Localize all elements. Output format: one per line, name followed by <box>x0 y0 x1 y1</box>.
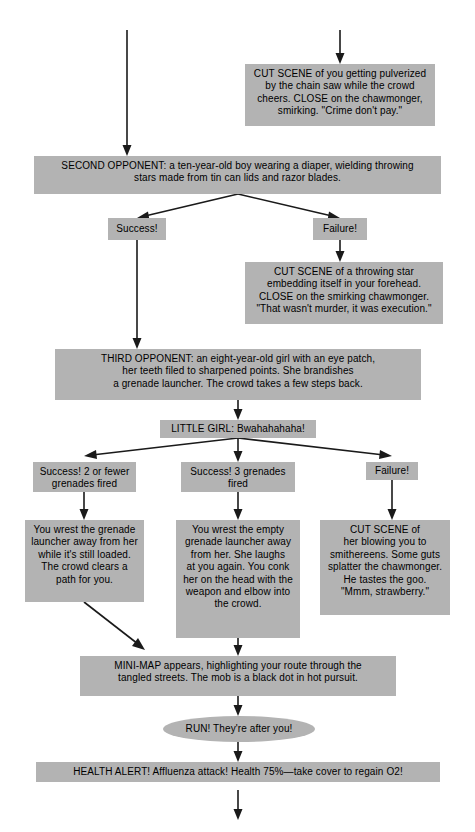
node-cut-scene-throwing-star: CUT SCENE of a throwing star embedding i… <box>245 262 443 324</box>
node-cut-scene-smithereens: CUT SCENE of her blowing you to smithere… <box>320 520 450 615</box>
node-mini-map: MINI-MAP appears, highlighting your rout… <box>80 656 396 696</box>
node-success-1: Success! <box>108 218 166 240</box>
arrowhead-wrest-empty <box>234 509 243 520</box>
node-cut-scene-chainsaw: CUT SCENE of you getting pulverized by t… <box>245 64 435 126</box>
arrowhead-success-three <box>234 451 243 462</box>
edge-second-to-success <box>145 194 238 216</box>
arrowhead-little-girl <box>234 409 243 420</box>
node-run-after-you: RUN! They're after you! <box>163 716 315 742</box>
arrowhead-success-two <box>84 450 97 459</box>
node-little-girl: LITTLE GIRL: Bwahahahaha! <box>160 420 316 438</box>
edge-girl-to-success-two <box>92 438 238 455</box>
node-third-opponent: THIRD OPPONENT: an eight-year-old girl w… <box>55 349 421 400</box>
node-wrest-loaded: You wrest the grenade launcher away from… <box>25 520 144 602</box>
arrowhead-cut-scene-star <box>336 251 345 262</box>
node-success-three: Success! 3 grenades fired <box>181 462 295 492</box>
arrowhead-run <box>234 705 243 716</box>
node-health-alert: HEALTH ALERT! Affluenza attack! Health 7… <box>36 762 440 782</box>
edge-second-to-failure <box>238 194 332 216</box>
arrowhead-minimap <box>234 645 243 656</box>
arrowhead-second-opponent <box>123 145 132 156</box>
node-wrest-empty: You wrest the empty grenade launcher awa… <box>176 520 300 638</box>
edge-girl-to-failure-two <box>238 438 384 455</box>
arrowhead-health-alert <box>234 751 243 762</box>
node-run-after-you-label: RUN! They're after you! <box>186 723 293 735</box>
arrowhead-cut-scene-chainsaw <box>336 53 345 64</box>
arrowhead-bottom <box>234 809 243 820</box>
arrowhead-minimap-diagonal <box>132 638 145 650</box>
node-failure-1: Failure! <box>313 218 367 240</box>
arrowhead-failure-2 <box>379 450 392 459</box>
node-success-two-or-fewer: Success! 2 or fewer grenades fired <box>33 462 136 492</box>
flowchart-canvas: CUT SCENE of you getting pulverized by t… <box>0 0 475 832</box>
arrowhead-cut-scene-smithereens <box>388 509 397 520</box>
edge-wrest-loaded-to-minimap <box>84 602 138 644</box>
arrowhead-wrest-loaded <box>80 509 89 520</box>
node-second-opponent: SECOND OPPONENT: a ten-year-old boy wear… <box>34 156 441 194</box>
arrowhead-third-opponent <box>133 338 142 349</box>
node-failure-2: Failure! <box>366 462 418 480</box>
